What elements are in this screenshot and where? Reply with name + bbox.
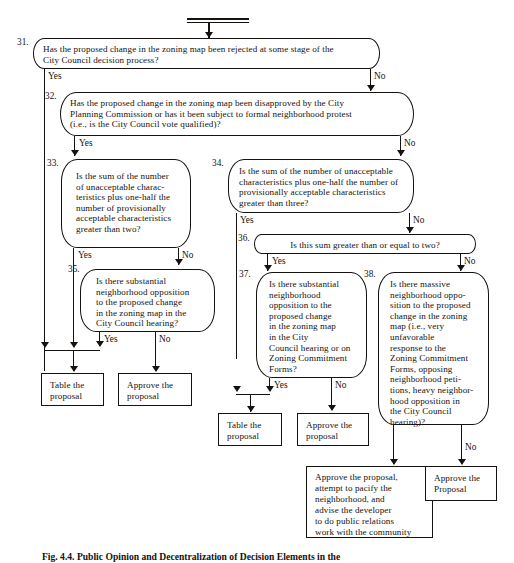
arrowhead-37-no [328, 405, 336, 411]
arrowhead-merge-left-a [41, 342, 49, 348]
edge-label-35-yes: Yes [104, 335, 118, 344]
node-31-box: Has the proposed change in the zoning ma… [33, 38, 380, 69]
edge-label-38-no: No [465, 443, 476, 452]
edge-label-36-no: No [464, 257, 475, 266]
terminal-approve-proposal-right-text: Approve the Proposal [434, 473, 489, 496]
edge-label-32-yes: Yes [79, 139, 93, 148]
arrowhead-merge-left-drop [70, 366, 78, 372]
arrowhead-merge-mid-drop [247, 406, 255, 412]
edge-label-34-no: No [413, 216, 424, 225]
flowchart-figure: 31. Has the proposed change in the zonin… [0, 0, 514, 563]
arrowhead-merge-mid-a [233, 386, 241, 392]
arrowhead-32-yes [71, 150, 79, 156]
edge-label-31-yes: Yes [48, 72, 62, 81]
merge-bus-left [44, 350, 100, 351]
edge-label-33-no: No [182, 251, 193, 260]
node-38-number: 38. [364, 270, 376, 279]
edge-label-32-no: No [404, 139, 415, 148]
node-37-text: Is there substantial neighborhood opposi… [269, 279, 359, 374]
node-31-text: Has the proposed change in the zoning ma… [43, 44, 372, 65]
arrowhead-35-yes [96, 341, 104, 347]
arrowhead-32-no [397, 150, 405, 156]
node-33-text: Is the sum of the number of unacceptable… [76, 171, 183, 235]
edge-label-37-yes: Yes [274, 381, 288, 390]
node-38-text: Is there massive neighborhood oppo- siti… [390, 279, 481, 427]
arrowhead-38-no [458, 459, 466, 465]
node-35-box: Is there substantial neighborhood opposi… [80, 269, 215, 332]
edge-33-yes [73, 248, 74, 345]
terminal-approve-proposal-mid-text: Approve the proposal [306, 420, 361, 443]
node-36-box: Is this sum greater than or equal to two… [254, 234, 476, 254]
arrowhead-34-no [406, 227, 414, 233]
arrowhead-merge-left-b [70, 342, 78, 348]
figure-caption-text: Fig. 4.4. Public Opinion and Decentraliz… [42, 551, 340, 562]
node-35-text: Is there substantial neighborhood opposi… [96, 276, 207, 329]
edge-31-yes [44, 69, 45, 371]
edge-label-35-no: No [159, 335, 170, 344]
terminal-approve-proposal-left: Approve the proposal [118, 373, 192, 406]
node-32-box: Has the proposed change in the zoning ma… [60, 92, 414, 136]
edge-label-37-no: No [335, 381, 346, 390]
edge-label-31-no: No [374, 72, 385, 81]
terminal-table-proposal-mid: Table the proposal [218, 413, 282, 446]
terminal-approve-pacify: Approve the proposal, attempt to pacify … [306, 466, 433, 538]
node-33-number: 33. [47, 159, 59, 168]
terminal-approve-proposal-left-text: Approve the proposal [127, 380, 184, 403]
node-34-number: 34. [212, 159, 224, 168]
node-32-number: 32. [45, 92, 57, 101]
arrowhead-36-yes [264, 265, 272, 271]
node-31-number: 31. [17, 38, 29, 47]
edge-label-34-yes: Yes [240, 216, 254, 225]
node-32-text: Has the proposed change in the zoning ma… [70, 98, 406, 130]
merge-bus-mid [236, 394, 270, 395]
node-37-box: Is there substantial neighborhood opposi… [256, 272, 367, 378]
node-36-number: 36. [238, 234, 250, 243]
start-bar [187, 18, 249, 23]
terminal-table-proposal-mid-text: Table the proposal [227, 420, 274, 443]
node-34-box: Is the sum of the number of unacceptable… [228, 159, 414, 213]
arrowhead-31-no [367, 85, 375, 91]
edge-label-33-yes: Yes [78, 251, 92, 260]
terminal-approve-proposal-right: Approve the Proposal [425, 466, 497, 501]
terminal-table-proposal-left-text: Table the proposal [50, 380, 96, 403]
edge-label-36-yes: Yes [272, 257, 286, 266]
terminal-approve-pacify-text: Approve the proposal, attempt to pacify … [315, 472, 425, 539]
arrowhead-37-yes [266, 386, 274, 392]
terminal-table-proposal-left: Table the proposal [41, 373, 104, 406]
node-36-text: Is this sum greater than or equal to two… [261, 240, 469, 251]
node-34-text: Is the sum of the number of unacceptable… [239, 166, 406, 208]
node-37-number: 37. [239, 270, 251, 279]
terminal-approve-proposal-mid: Approve the proposal [297, 413, 369, 446]
node-35-number: 35. [68, 265, 80, 274]
node-33-box: Is the sum of the number of unacceptable… [61, 159, 191, 248]
node-38-box: Is there massive neighborhood oppo- siti… [378, 272, 489, 425]
figure-caption: Fig. 4.4. Public Opinion and Decentraliz… [42, 551, 462, 562]
arrowhead-38-yes [390, 459, 398, 465]
arrowhead-35-no [152, 366, 160, 372]
